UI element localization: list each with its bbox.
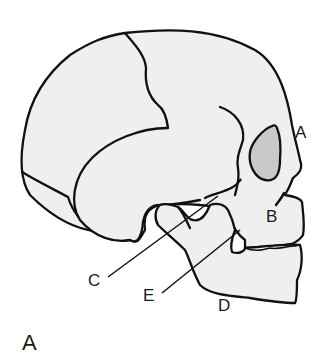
label-d: D <box>218 297 230 314</box>
panel-label: A <box>22 332 37 354</box>
label-c: C <box>88 272 100 289</box>
label-a: A <box>295 124 306 141</box>
label-b: B <box>266 208 277 225</box>
label-e: E <box>143 287 154 304</box>
skull-diagram <box>0 0 332 359</box>
